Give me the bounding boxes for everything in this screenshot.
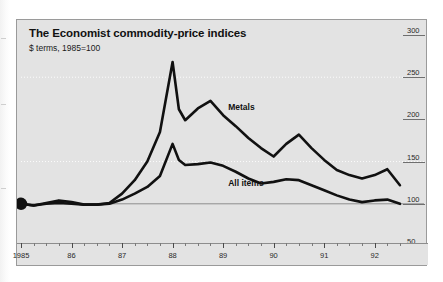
x-axis: 198586878889909192 [17, 243, 428, 265]
x-tick-minor [210, 243, 211, 246]
y-tick-rule [403, 77, 425, 78]
x-tick-major [173, 243, 174, 248]
x-tick-minor [286, 243, 287, 246]
x-tick-minor [34, 243, 35, 246]
scan-edge-artifact [0, 0, 10, 282]
series-line-metals [21, 62, 400, 205]
x-tick-minor [198, 243, 199, 246]
x-tick-major [21, 243, 22, 248]
x-tick-minor [147, 243, 148, 246]
x-tick-minor [349, 243, 350, 246]
x-tick-minor [299, 243, 300, 246]
y-tick-rule [403, 119, 425, 120]
series-line-all-items [21, 144, 400, 206]
x-tick-minor [236, 243, 237, 246]
x-tick-minor [261, 243, 262, 246]
x-tick-label: 87 [118, 251, 126, 260]
x-tick-minor [185, 243, 186, 246]
y-tick-label: 100 [407, 195, 420, 204]
x-tick-minor [248, 243, 249, 246]
plot-area [17, 20, 428, 267]
y-tick-label: 250 [407, 68, 420, 77]
y-tick-rule [403, 204, 425, 205]
edge-artifact-mark [1, 38, 6, 39]
series-label-all-items: All items [228, 178, 263, 188]
x-tick-label: 1985 [13, 251, 30, 260]
series-label-metals: Metals [228, 102, 254, 112]
x-tick-label: 92 [371, 251, 379, 260]
edge-artifact-mark [1, 188, 6, 189]
x-tick-label: 91 [320, 251, 328, 260]
x-tick-major [324, 243, 325, 248]
x-tick-label: 88 [168, 251, 176, 260]
y-tick-label: 200 [407, 110, 420, 119]
x-tick-major [375, 243, 376, 248]
y-tick-rule [403, 162, 425, 163]
x-tick-label: 90 [269, 251, 277, 260]
start-marker-dot [17, 198, 27, 210]
x-tick-minor [160, 243, 161, 246]
x-tick-minor [337, 243, 338, 246]
x-tick-minor [135, 243, 136, 246]
chart-panel: The Economist commodity-price indices $ … [16, 19, 427, 266]
x-tick-minor [84, 243, 85, 246]
x-tick-label: 86 [67, 251, 75, 260]
x-tick-minor [97, 243, 98, 246]
x-tick-minor [46, 243, 47, 246]
x-tick-major [122, 243, 123, 248]
y-tick-label: 300 [407, 26, 420, 35]
edge-artifact-mark [1, 104, 6, 105]
line-chart-svg [17, 20, 428, 267]
x-tick-major [274, 243, 275, 248]
y-tick-label: 150 [407, 153, 420, 162]
x-tick-major [72, 243, 73, 248]
x-tick-major [223, 243, 224, 248]
x-tick-minor [109, 243, 110, 246]
x-tick-label: 89 [219, 251, 227, 260]
x-tick-minor [400, 243, 401, 246]
x-tick-minor [387, 243, 388, 246]
chart-page: The Economist commodity-price indices $ … [0, 0, 443, 282]
x-tick-minor [59, 243, 60, 246]
x-tick-minor [362, 243, 363, 246]
y-tick-rule [403, 35, 425, 36]
x-tick-minor [312, 243, 313, 246]
